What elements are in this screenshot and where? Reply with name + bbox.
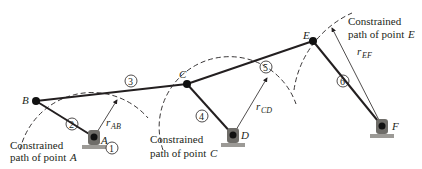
svg-text:AB: AB bbox=[110, 122, 121, 131]
svg-text:4: 4 bbox=[199, 111, 204, 122]
svg-text:3: 3 bbox=[128, 76, 133, 87]
label-c: C bbox=[179, 68, 187, 80]
radius-ab-label: r AB bbox=[106, 116, 121, 131]
ground-support-f bbox=[370, 119, 394, 138]
link-5 bbox=[187, 41, 313, 84]
link-number-5: 5 bbox=[260, 61, 272, 73]
label-e: E bbox=[302, 29, 310, 41]
radius-cd-label: r CD bbox=[256, 100, 272, 115]
link-number-6: 6 bbox=[337, 75, 349, 87]
svg-text:EF: EF bbox=[361, 51, 372, 60]
link-number-4: 4 bbox=[196, 110, 208, 122]
label-f: F bbox=[391, 120, 399, 132]
svg-text:1: 1 bbox=[109, 143, 114, 154]
svg-text:A: A bbox=[69, 151, 77, 163]
joint-e bbox=[309, 37, 317, 45]
label-a: A bbox=[100, 134, 108, 146]
svg-text:Constrained: Constrained bbox=[348, 15, 402, 27]
label-d: D bbox=[240, 129, 249, 141]
link-number-2: 2 bbox=[66, 118, 78, 130]
link-number-1: 1 bbox=[106, 142, 118, 154]
joint-c bbox=[183, 80, 191, 88]
link-4 bbox=[187, 84, 233, 135]
caption-path-a: Constrained path of point A bbox=[10, 139, 77, 163]
link-number-3: 3 bbox=[125, 75, 137, 87]
link-2 bbox=[36, 101, 94, 137]
joint-b bbox=[32, 97, 40, 105]
svg-text:path of point: path of point bbox=[150, 147, 206, 159]
svg-text:Constrained: Constrained bbox=[10, 139, 64, 151]
svg-text:6: 6 bbox=[340, 76, 345, 87]
label-b: B bbox=[22, 94, 29, 106]
svg-text:CD: CD bbox=[261, 106, 272, 115]
svg-text:2: 2 bbox=[69, 119, 74, 130]
caption-path-c: Constrained path of point C bbox=[150, 133, 218, 159]
svg-text:E: E bbox=[407, 28, 415, 40]
radius-ef-label: r EF bbox=[357, 45, 372, 60]
caption-path-e: Constrained path of point E bbox=[348, 15, 415, 40]
svg-text:Constrained: Constrained bbox=[150, 133, 204, 145]
svg-text:path of point: path of point bbox=[10, 151, 66, 163]
svg-text:C: C bbox=[210, 147, 218, 159]
linkage-diagram: A B C D E F 1 2 3 4 5 6 r AB r CD r EF bbox=[0, 0, 422, 169]
link-3 bbox=[36, 84, 187, 101]
svg-text:5: 5 bbox=[263, 62, 268, 73]
svg-text:path of point: path of point bbox=[348, 28, 404, 40]
